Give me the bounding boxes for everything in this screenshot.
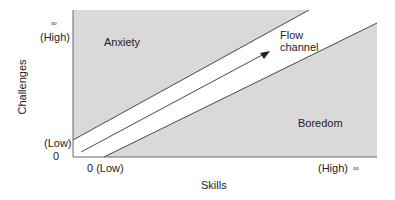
x-low-label: 0 (Low) — [87, 162, 124, 174]
anxiety-label: Anxiety — [104, 36, 140, 48]
x-axis-title: Skills — [201, 179, 227, 191]
y-zero-label: 0 — [53, 150, 59, 162]
y-axis-title: Challenges — [16, 59, 28, 114]
boredom-label: Boredom — [298, 117, 343, 129]
flow-label-line2: channel — [280, 41, 319, 53]
y-high-label: (High) — [40, 31, 70, 43]
y-low-label: (Low) — [44, 137, 72, 149]
flow-label-line1: Flow — [280, 29, 303, 41]
y-infinity-symbol: ∞ — [51, 20, 57, 28]
x-infinity-symbol: ∞ — [353, 165, 359, 173]
x-high-label: (High) — [318, 162, 348, 174]
